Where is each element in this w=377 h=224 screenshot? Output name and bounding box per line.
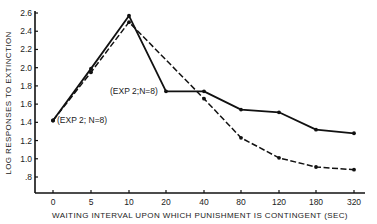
annotation-solid-series: (EXP 2; N=8) — [57, 115, 107, 125]
data-point — [239, 136, 243, 140]
data-point — [314, 165, 318, 169]
x-tick-label: 80 — [236, 197, 246, 207]
data-point — [352, 168, 356, 172]
y-tick-label: 1.8 — [20, 81, 32, 91]
y-tick-label: 2.2 — [20, 44, 32, 54]
data-point — [127, 14, 131, 18]
x-tick-label: 5 — [89, 197, 94, 207]
y-tick-label: 2.0 — [20, 63, 32, 73]
y-tick-label: 1.0 — [20, 154, 32, 164]
x-tick-label: 180 — [309, 197, 323, 207]
data-point — [202, 97, 206, 101]
data-point — [277, 156, 281, 160]
x-axis-title: WAITING INTERVAL UPON WHICH PUNISHMENT I… — [52, 211, 348, 220]
data-point — [202, 89, 206, 93]
y-axis-title: LOG RESPONSES TO EXTINCTION — [4, 31, 13, 174]
y-tick-label: .8 — [25, 172, 32, 182]
series-dashed — [51, 20, 356, 171]
data-point — [277, 110, 281, 114]
annotation-dashed-series: (EXP 2;N=8) — [110, 86, 158, 96]
x-tick-label: 40 — [199, 197, 209, 207]
data-point — [352, 131, 356, 135]
data-point — [51, 119, 55, 123]
data-point — [127, 20, 131, 24]
y-tick-label: 2.6 — [20, 8, 32, 18]
data-point — [164, 89, 168, 93]
y-tick-label: 1.6 — [20, 99, 32, 109]
x-tick-label: 10 — [124, 197, 134, 207]
y-tick-label: 2.4 — [20, 26, 32, 36]
line-chart: 2.62.42.22.01.81.61.41.21.0.805102040801… — [0, 0, 377, 224]
data-point — [314, 128, 318, 132]
axes: 2.62.42.22.01.81.61.41.21.0.805102040801… — [20, 8, 365, 207]
data-point — [239, 108, 243, 112]
x-tick-label: 120 — [272, 197, 286, 207]
data-point — [89, 70, 93, 74]
x-tick-label: 320 — [347, 197, 361, 207]
y-tick-label: 1.2 — [20, 136, 32, 146]
x-tick-label: 0 — [51, 197, 56, 207]
x-tick-label: 20 — [161, 197, 171, 207]
y-tick-label: 1.4 — [20, 117, 32, 127]
